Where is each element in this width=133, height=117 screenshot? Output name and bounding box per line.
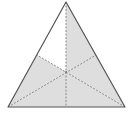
centroid-point [65,71,67,73]
triangle-diagram [0,0,133,117]
